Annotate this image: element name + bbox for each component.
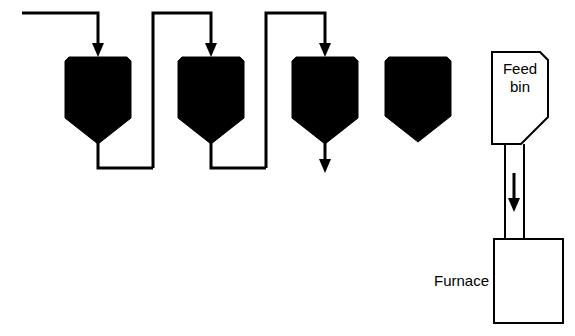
hopper-1-group: [22, 13, 153, 168]
feed-bin-label-line1: Feed: [503, 60, 537, 77]
outlet-pipe-hopper-2: [211, 140, 266, 168]
process-flow-diagram: Feed bin Furnace: [0, 0, 575, 336]
feed-bin-label-line2: bin: [510, 78, 530, 95]
furnace-group: Furnace: [434, 239, 563, 323]
hopper-4-body: [385, 57, 451, 142]
outlet-pipe-hopper-1: [98, 140, 153, 168]
feed-bin-chute-arrow-icon: [508, 198, 520, 212]
hopper-1-body: [65, 57, 131, 144]
inlet-arrow-hopper-3-icon: [319, 43, 331, 57]
feed-bin-group: Feed bin: [492, 52, 548, 144]
furnace-body: [494, 239, 563, 323]
hopper-3-body: [292, 57, 358, 144]
hopper-4-group: [385, 57, 451, 142]
hopper-2-group: [153, 13, 266, 168]
inlet-arrow-hopper-1-icon: [92, 43, 104, 57]
hopper-2-body: [178, 57, 244, 144]
feed-line-to-hopper-1: [22, 13, 98, 47]
outlet-arrow-hopper-3-icon: [319, 159, 331, 173]
hopper-3-group: [266, 13, 358, 173]
feed-bin-chute-group: [505, 144, 524, 240]
furnace-label: Furnace: [434, 272, 489, 289]
inlet-arrow-hopper-2-icon: [205, 43, 217, 57]
diagram-canvas: Feed bin Furnace: [0, 0, 575, 336]
